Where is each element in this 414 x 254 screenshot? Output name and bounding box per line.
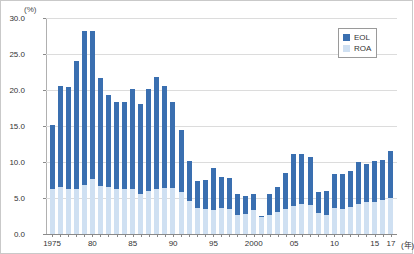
bar-segment-eol: [380, 160, 385, 200]
bar-stack[interactable]: [299, 154, 304, 234]
bar-stack[interactable]: [203, 180, 208, 234]
bar-stack[interactable]: [364, 164, 369, 234]
bar-segment-roa: [58, 187, 63, 234]
bar-stack[interactable]: [162, 86, 167, 234]
bar-slot: [233, 18, 241, 234]
bar-stack[interactable]: [380, 160, 385, 234]
bar-slot: [96, 18, 104, 234]
bar-stack[interactable]: [251, 194, 256, 234]
legend-item-eol[interactable]: EOL: [343, 32, 371, 43]
bar-stack[interactable]: [332, 174, 337, 234]
bar-stack[interactable]: [388, 151, 393, 234]
x-axis-tick: [274, 234, 282, 238]
bar-slot: [185, 18, 193, 234]
y-axis-tick-label: 25.0: [0, 50, 25, 59]
bar-stack[interactable]: [340, 174, 345, 234]
y-axis-tick-label: 10.0: [0, 158, 25, 167]
bar-stack[interactable]: [98, 78, 103, 234]
x-axis-tick: [104, 234, 112, 238]
bar-slot: [88, 18, 96, 234]
bar-segment-roa: [146, 191, 151, 234]
bar-stack[interactable]: [275, 187, 280, 235]
bar-stack[interactable]: [58, 86, 63, 234]
bar-stack[interactable]: [348, 171, 353, 234]
bar-segment-roa: [348, 207, 353, 234]
bar-slot: [282, 18, 290, 234]
x-axis-tick: [96, 234, 104, 238]
bar-stack[interactable]: [90, 31, 95, 234]
bar-stack[interactable]: [324, 191, 329, 234]
bar-segment-roa: [259, 217, 264, 234]
bar-stack[interactable]: [130, 89, 135, 234]
bar-stack[interactable]: [66, 87, 71, 234]
bar-segment-eol: [82, 31, 87, 185]
bar-segment-roa: [170, 188, 175, 234]
bar-stack[interactable]: [138, 104, 143, 234]
bar-stack[interactable]: [211, 168, 216, 234]
bar-segment-roa: [122, 189, 127, 234]
x-axis-tick: [379, 234, 387, 238]
bar-segment-eol: [283, 173, 288, 209]
x-axis-tick: [56, 234, 64, 238]
bar-segment-roa: [364, 202, 369, 234]
bar-stack[interactable]: [356, 162, 361, 234]
bar-stack[interactable]: [154, 77, 159, 234]
bar-stack[interactable]: [170, 102, 175, 234]
bar-stack[interactable]: [195, 181, 200, 234]
bar-stack[interactable]: [308, 157, 313, 234]
x-axis-tick: [258, 234, 266, 238]
bar-stack[interactable]: [74, 61, 79, 234]
x-axis-tick: [371, 234, 379, 238]
bar-stack[interactable]: [179, 130, 184, 234]
x-axis-tick-label: 10: [330, 239, 339, 248]
bar-segment-eol: [364, 164, 369, 202]
bar-stack[interactable]: [372, 161, 377, 234]
bar-stack[interactable]: [187, 161, 192, 234]
bar-stack[interactable]: [259, 216, 264, 234]
bar-segment-roa: [316, 213, 321, 234]
bar-stack[interactable]: [283, 173, 288, 234]
bar-slot: [56, 18, 64, 234]
bar-stack[interactable]: [316, 192, 321, 234]
bar-slot: [145, 18, 153, 234]
bar-stack[interactable]: [291, 154, 296, 234]
x-axis-tick: [201, 234, 209, 238]
bar-stack[interactable]: [219, 177, 224, 234]
bar-stack[interactable]: [122, 102, 127, 234]
bar-slot: [322, 18, 330, 234]
bar-slot: [80, 18, 88, 234]
x-axis-tick: [354, 234, 362, 238]
bar-segment-eol: [324, 191, 329, 215]
bar-slot: [153, 18, 161, 234]
bar-slot: [290, 18, 298, 234]
bar-stack[interactable]: [243, 196, 248, 234]
x-axis-tick: [153, 234, 161, 238]
bar-stack[interactable]: [114, 102, 119, 234]
bar-segment-eol: [227, 178, 232, 209]
y-axis-tick-label: 5.0: [0, 194, 25, 203]
bar-stack[interactable]: [267, 194, 272, 234]
legend-item-roa[interactable]: ROA: [343, 43, 371, 54]
bar-stack[interactable]: [227, 178, 232, 234]
bar-slot: [129, 18, 137, 234]
bar-segment-roa: [154, 189, 159, 234]
x-axis-tick-label: 95: [209, 239, 218, 248]
bar-slot: [258, 18, 266, 234]
x-axis-tick: [113, 234, 121, 238]
bar-stack[interactable]: [235, 194, 240, 234]
bar-slot: [177, 18, 185, 234]
bar-stack[interactable]: [106, 95, 111, 234]
bar-segment-roa: [267, 215, 272, 234]
bar-segment-roa: [138, 194, 143, 234]
bar-stack[interactable]: [82, 31, 87, 234]
bar-segment-eol: [316, 192, 321, 214]
x-axis-tick-label: 1975: [43, 239, 61, 248]
bar-segment-roa: [372, 202, 377, 234]
bar-slot: [201, 18, 209, 234]
y-axis-unit-label: (%): [24, 5, 36, 14]
bar-stack[interactable]: [146, 89, 151, 234]
bar-segment-eol: [90, 31, 95, 179]
bar-stack[interactable]: [50, 125, 55, 234]
x-axis-tick: [217, 234, 225, 238]
bar-slot: [121, 18, 129, 234]
